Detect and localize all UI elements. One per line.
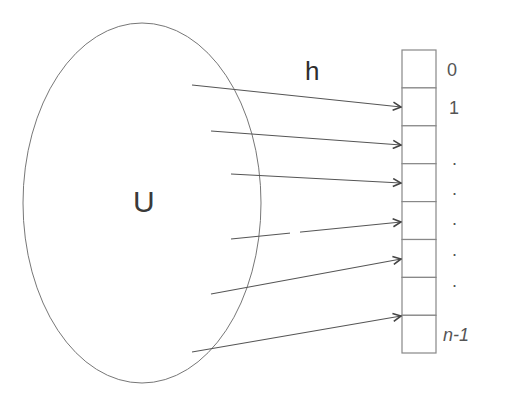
table-cell-1	[402, 88, 436, 126]
index-label-0: 0	[447, 61, 457, 79]
table-cell-3	[402, 164, 436, 202]
index-label-dot-3: .	[452, 210, 457, 228]
arrow-to-cell-4	[231, 222, 401, 239]
index-label-dot-5: .	[452, 272, 457, 290]
index-label-1: 1	[449, 99, 459, 117]
index-label-dot-2: .	[452, 180, 457, 198]
mapping-arrows	[192, 85, 401, 352]
hash-function-label: h	[305, 58, 319, 84]
arrow-gap	[290, 228, 300, 234]
universe-label: U	[133, 187, 155, 217]
table-cell-4	[402, 202, 436, 240]
table-cell-2	[402, 126, 436, 164]
table-cell-7	[402, 315, 436, 353]
table-cell-6	[402, 277, 436, 315]
index-label-dot-4: .	[452, 241, 457, 259]
arrow-to-cell-2	[211, 131, 401, 145]
index-label-dot-1: .	[452, 150, 457, 168]
arrow-to-cell-3	[231, 174, 401, 183]
arrow-to-cell-5	[211, 259, 401, 294]
table-cell-0	[402, 50, 436, 88]
hash-diagram: U h 0 1 . . . . . n-1	[0, 0, 507, 396]
diagram-graphics	[0, 0, 507, 396]
index-label-last: n-1	[443, 326, 469, 344]
hash-table	[402, 50, 436, 353]
table-cell-5	[402, 240, 436, 278]
arrow-to-cell-1	[192, 85, 401, 107]
